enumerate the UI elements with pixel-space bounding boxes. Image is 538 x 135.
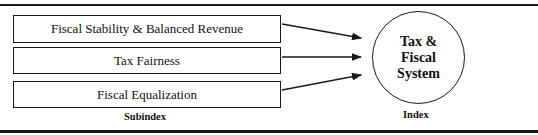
index-circle: Tax & Fiscal System (372, 11, 465, 104)
subindex-column-label: Subindex (124, 111, 166, 122)
arrow-3-icon (282, 75, 361, 90)
index-title: Tax & Fiscal System (397, 34, 440, 82)
arrow-1-icon (282, 24, 361, 38)
index-column-label: Index (403, 109, 429, 120)
